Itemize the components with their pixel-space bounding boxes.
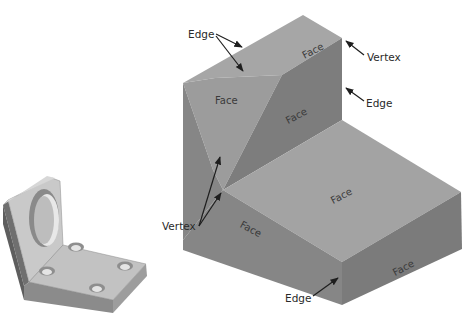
label-edge-top: Edge bbox=[188, 28, 214, 40]
diagram-canvas: Face Face Face Face Face Face Edge Verte… bbox=[0, 0, 468, 319]
isometric-block: Face Face Face Face Face Face bbox=[183, 15, 462, 305]
mount-hole bbox=[39, 267, 55, 276]
mount-hole bbox=[89, 284, 105, 293]
label-edge-right: Edge bbox=[366, 97, 392, 109]
bracket-part bbox=[3, 176, 147, 313]
mount-hole bbox=[117, 262, 133, 271]
face-label: Face bbox=[215, 95, 238, 106]
label-vertex-left: Vertex bbox=[162, 220, 196, 232]
mount-hole bbox=[68, 243, 84, 252]
arrow-icon bbox=[346, 41, 364, 55]
label-edge-bottom: Edge bbox=[285, 292, 311, 304]
label-vertex-top-right: Vertex bbox=[367, 51, 401, 63]
arrow-icon bbox=[346, 88, 364, 101]
